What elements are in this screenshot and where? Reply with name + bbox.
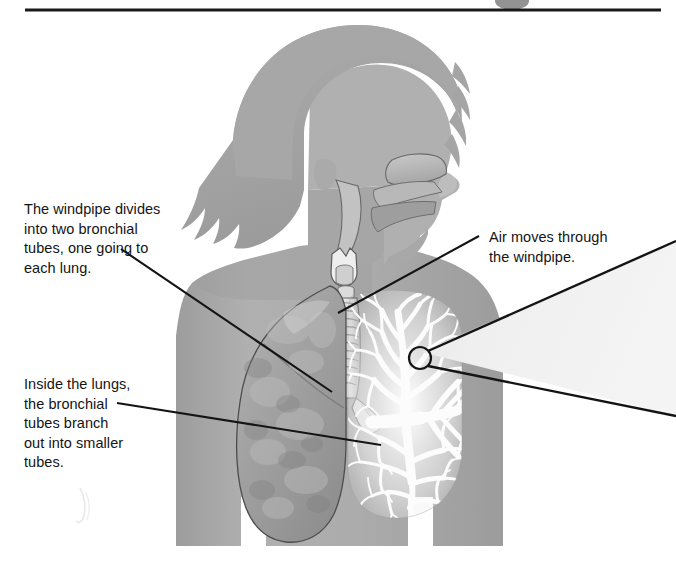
respiratory-system-illustration (0, 0, 676, 579)
faint-scan-artifact (76, 488, 89, 522)
respiratory-system-figure: The windpipe divides into two bronchial … (0, 0, 676, 579)
callout-windpipe-divides: The windpipe divides into two bronchial … (24, 200, 214, 278)
callout-air-moves: Air moves through the windpipe. (489, 228, 669, 267)
top-divider-rule (25, 0, 661, 10)
callout-inside-lungs: Inside the lungs, the bronchial tubes br… (24, 375, 194, 473)
